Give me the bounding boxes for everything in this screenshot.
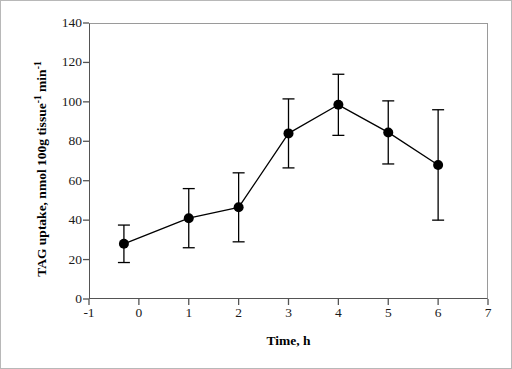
x-axis-tick-label: 0 bbox=[136, 305, 143, 321]
x-axis-tick-label: 5 bbox=[385, 305, 392, 321]
x-axis-tick-label: 4 bbox=[335, 305, 342, 321]
x-axis-tick-label: 6 bbox=[435, 305, 442, 321]
x-axis-tick-label: 2 bbox=[235, 305, 242, 321]
x-axis-tick-label: 7 bbox=[485, 305, 492, 321]
y-axis-tick-label: 60 bbox=[69, 173, 83, 189]
y-axis-tick-labels: 020406080100120140 bbox=[49, 23, 82, 299]
y-axis-tick-label: 80 bbox=[69, 133, 83, 149]
x-axis-title: Time, h bbox=[89, 333, 488, 349]
y-axis-tick-label: 0 bbox=[75, 291, 82, 307]
chart-figure: TAG uptake, nmol 100g tissue-1 min-1 020… bbox=[0, 0, 512, 369]
data-point-marker bbox=[383, 127, 393, 137]
data-point-marker bbox=[234, 202, 244, 212]
plot-area bbox=[89, 23, 488, 299]
series-line bbox=[124, 105, 438, 244]
x-axis-tick-label: 1 bbox=[185, 305, 192, 321]
x-axis-tick-label: -1 bbox=[83, 305, 94, 321]
y-axis-title: TAG uptake, nmol 100g tissue-1 min-1 bbox=[34, 44, 50, 294]
y-axis-tick-label: 140 bbox=[62, 15, 82, 31]
y-axis-tick-label: 100 bbox=[62, 94, 82, 110]
y-axis-title-sup1: -1 bbox=[32, 95, 43, 103]
data-point-marker bbox=[433, 160, 443, 170]
y-axis-title-mid: min bbox=[34, 69, 49, 95]
data-point-marker bbox=[184, 213, 194, 223]
y-axis-tick-label: 120 bbox=[62, 54, 82, 70]
y-axis-title-lead: TAG uptake, nmol 100g tissue bbox=[34, 103, 49, 276]
x-axis-tick-label: 3 bbox=[285, 305, 292, 321]
data-point-marker bbox=[333, 100, 343, 110]
y-axis-tick-label: 20 bbox=[69, 252, 83, 268]
data-point-marker bbox=[119, 239, 129, 249]
y-axis-tick-label: 40 bbox=[69, 212, 83, 228]
data-point-marker bbox=[284, 128, 294, 138]
series-0 bbox=[118, 74, 444, 262]
x-axis-tick-labels: -101234567 bbox=[89, 305, 488, 325]
axis-ticks bbox=[83, 23, 488, 305]
chart-canvas bbox=[89, 23, 488, 299]
y-axis-title-sup2: -1 bbox=[32, 61, 43, 69]
